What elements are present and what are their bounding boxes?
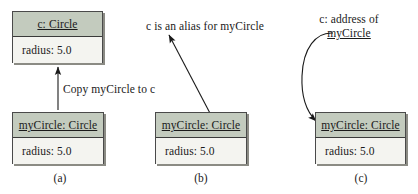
object-box-body: radius: 5.0	[156, 138, 246, 164]
annotation-c-is-alias-for-mycircle: c is an alias for myCircle	[146, 19, 264, 33]
object-box-c-circle: c: Circle radius: 5.0	[12, 11, 103, 63]
annotation-copy-mycircle-to-c: Copy myCircle to c	[63, 82, 155, 96]
annotation-line-1: c: address of	[306, 12, 392, 26]
object-reference-diagram: c: Circle radius: 5.0 Copy myCircle to c…	[0, 0, 418, 194]
object-box-field-radius: radius: 5.0	[325, 145, 375, 157]
annotation-line-2: myCircle	[306, 26, 392, 40]
object-box-mycircle-circle-c: myCircle: Circle radius: 5.0	[315, 112, 406, 164]
object-box-header-label: c: Circle	[37, 18, 77, 30]
object-box-header: myCircle: Circle	[316, 113, 405, 138]
object-box-header: myCircle: Circle	[13, 113, 103, 138]
panel-caption-c: (c)	[331, 172, 391, 184]
object-box-field-radius: radius: 5.0	[165, 145, 215, 157]
arrow-panel-c	[302, 33, 333, 121]
object-box-header-label: myCircle: Circle	[162, 119, 241, 131]
object-box-mycircle-circle-b: myCircle: Circle radius: 5.0	[155, 112, 247, 164]
object-box-field-radius: radius: 5.0	[22, 44, 72, 56]
object-box-body: radius: 5.0	[13, 138, 103, 164]
object-box-header-label: myCircle: Circle	[321, 119, 400, 131]
object-box-mycircle-circle-a: myCircle: Circle radius: 5.0	[12, 112, 104, 164]
object-box-body: radius: 5.0	[13, 37, 102, 63]
object-box-header-label: myCircle: Circle	[19, 119, 98, 131]
object-box-header: c: Circle	[13, 12, 102, 37]
object-box-body: radius: 5.0	[316, 138, 405, 164]
object-box-header: myCircle: Circle	[156, 113, 246, 138]
arrow-panel-b	[169, 35, 212, 117]
annotation-c-address-of-mycircle: c: address of myCircle	[306, 12, 392, 40]
object-box-field-radius: radius: 5.0	[22, 145, 72, 157]
panel-caption-a: (a)	[30, 172, 90, 184]
panel-caption-b: (b)	[171, 172, 231, 184]
